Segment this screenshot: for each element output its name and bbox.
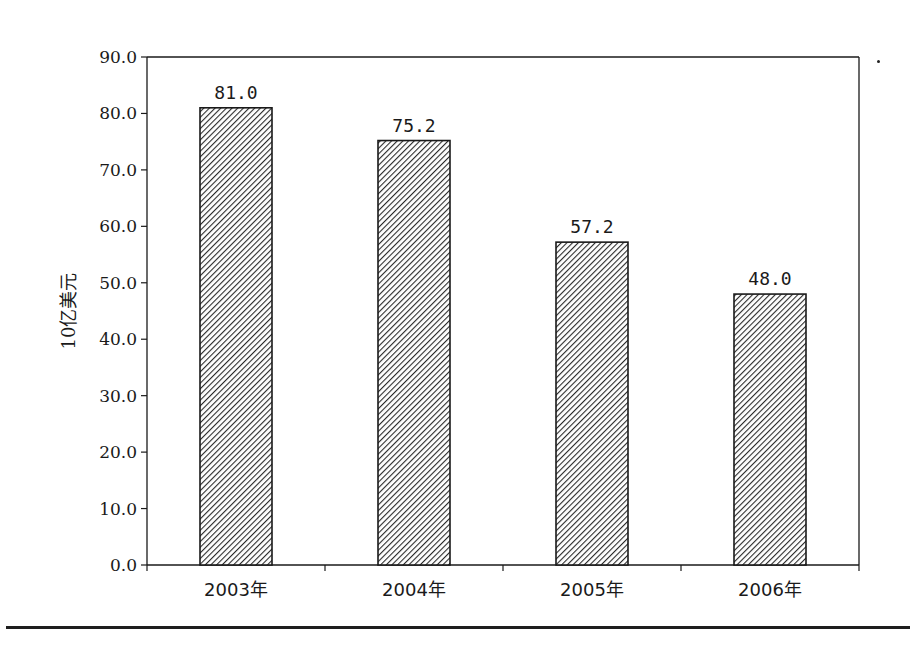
y-tick-label: 80.0 <box>99 103 137 123</box>
bar-value-label: 81.0 <box>214 82 257 103</box>
bar-2003 <box>200 108 272 565</box>
y-tick-label: 70.0 <box>99 160 137 180</box>
bar-chart: 0.010.020.030.040.050.060.070.080.090.01… <box>0 0 924 645</box>
y-tick-label: 20.0 <box>99 442 137 462</box>
bar-value-label: 48.0 <box>748 268 791 289</box>
x-category-label: 2004年 <box>382 579 446 600</box>
x-category-label: 2003年 <box>204 579 268 600</box>
bar-2005 <box>556 242 628 565</box>
plot-area: 0.010.020.030.040.050.060.070.080.090.01… <box>58 47 859 600</box>
bar-2006 <box>734 294 806 565</box>
y-tick-label: 40.0 <box>99 329 137 349</box>
stray-dot <box>877 60 880 63</box>
y-tick-label: 90.0 <box>99 47 137 67</box>
y-tick-label: 50.0 <box>99 273 137 293</box>
y-axis-title: 10亿美元 <box>58 273 79 350</box>
y-tick-label: 0.0 <box>110 555 137 575</box>
bottom-rule <box>6 626 910 629</box>
x-category-label: 2006年 <box>738 579 802 600</box>
bar-value-label: 57.2 <box>570 216 613 237</box>
y-tick-label: 10.0 <box>99 499 137 519</box>
bar-2004 <box>378 141 450 565</box>
y-tick-label: 30.0 <box>99 386 137 406</box>
bar-value-label: 75.2 <box>392 115 435 136</box>
y-tick-label: 60.0 <box>99 216 137 236</box>
x-category-label: 2005年 <box>560 579 624 600</box>
